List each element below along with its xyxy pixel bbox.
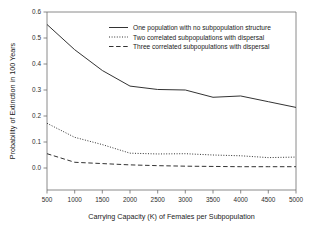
x-axis-tick-labels: 500 1000 1500 2000 2500 3000 3500 4000 4… — [42, 196, 304, 203]
x-tick-label-4500: 4500 — [261, 196, 276, 203]
y-tick-label-0.2: 0.2 — [32, 112, 41, 119]
x-tick-label-2500: 2500 — [151, 196, 166, 203]
series-line-three-subpopulations — [47, 154, 296, 167]
x-tick-label-4000: 4000 — [234, 196, 249, 203]
y-axis-title: Probability of Extinction in 100 Years — [8, 42, 17, 159]
y-tick-label-0.0: 0.0 — [32, 164, 41, 171]
figure-container: 0.6 0.5 0.4 0.3 0.2 0.1 0.0 500 1000 150… — [0, 0, 311, 233]
y-tick-label-0.4: 0.4 — [32, 60, 41, 67]
y-axis-tick-labels: 0.6 0.5 0.4 0.3 0.2 0.1 0.0 — [32, 8, 41, 171]
series-line-two-subpopulations — [47, 123, 296, 157]
x-tick-label-1000: 1000 — [68, 196, 83, 203]
x-tick-label-3000: 3000 — [178, 196, 193, 203]
extinction-probability-line-chart: 0.6 0.5 0.4 0.3 0.2 0.1 0.0 500 1000 150… — [0, 0, 311, 233]
x-tick-label-3500: 3500 — [206, 196, 221, 203]
y-tick-label-0.5: 0.5 — [32, 34, 41, 41]
x-tick-label-2000: 2000 — [123, 196, 138, 203]
legend-label-1: Two correlated subpopulations with dispe… — [133, 34, 265, 42]
x-tick-label-1500: 1500 — [95, 196, 110, 203]
x-tick-label-5000: 5000 — [289, 196, 304, 203]
y-tick-label-0.6: 0.6 — [32, 8, 41, 15]
y-tick-label-0.1: 0.1 — [32, 138, 41, 145]
x-axis-title: Carrying Capacity (K) of Females per Sub… — [88, 212, 255, 221]
y-tick-label-0.3: 0.3 — [32, 86, 41, 93]
x-tick-label-500: 500 — [42, 196, 53, 203]
y-axis-ticks — [44, 12, 48, 168]
x-axis-ticks — [47, 190, 296, 194]
legend-label-0: One population with no subpopulation str… — [133, 24, 271, 32]
legend: One population with no subpopulation str… — [109, 24, 271, 51]
legend-label-2: Three correlated subpopulations with dis… — [133, 43, 270, 51]
